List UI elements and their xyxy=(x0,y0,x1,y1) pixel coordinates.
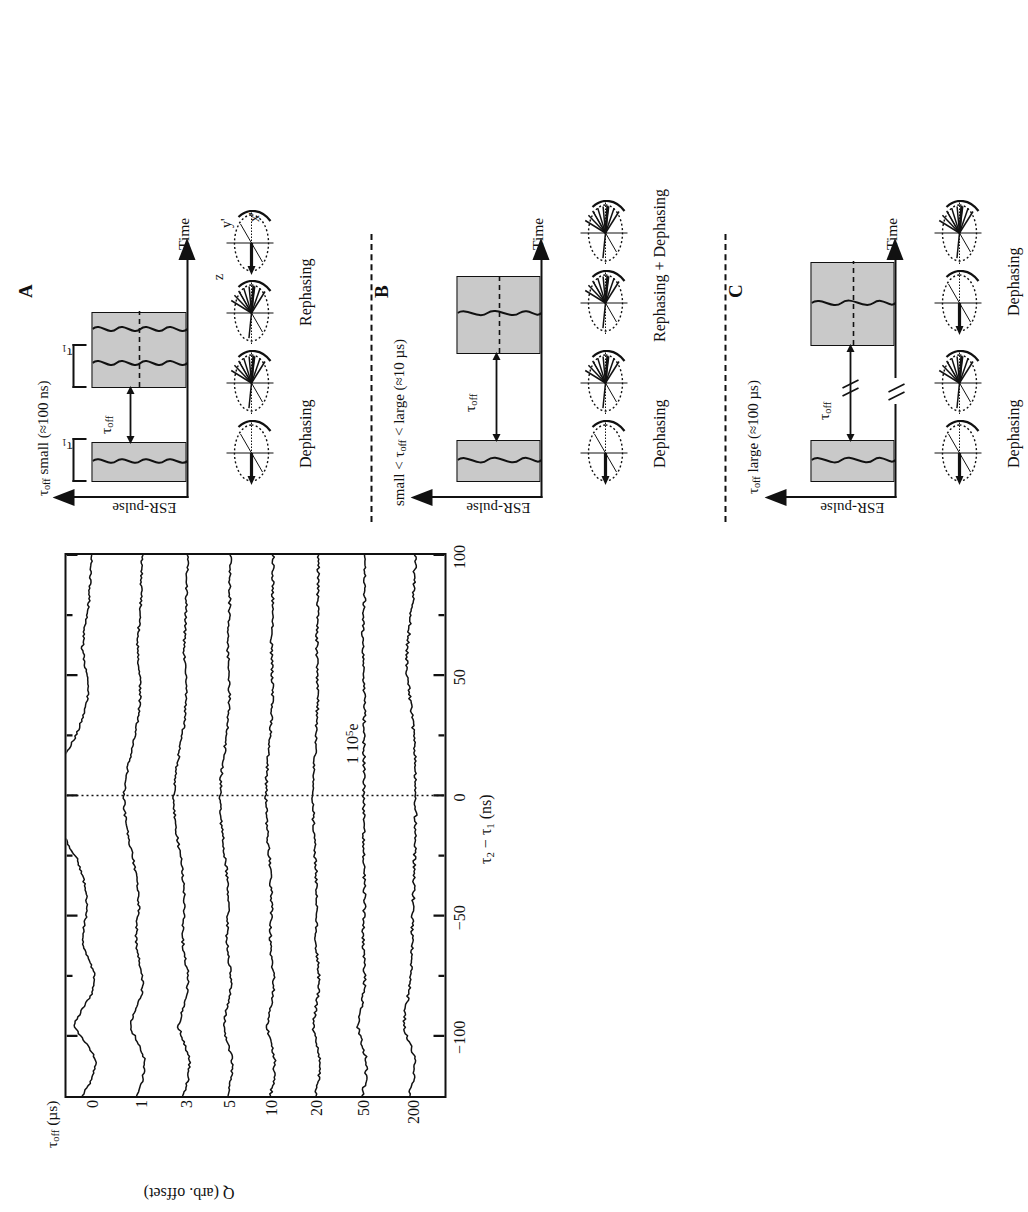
x-tick-label-0: −100 xyxy=(450,1022,468,1054)
legend-header: τoff (µs) xyxy=(42,1101,61,1149)
panel-a-bloch-2 xyxy=(224,350,282,416)
trace-5 xyxy=(219,555,233,1096)
scale-bar-label: 1 105e xyxy=(342,723,361,764)
panel-c-phase-label-2: Dephasing xyxy=(1004,248,1022,316)
panel-b: B small < τoff < large (≈10 µs) ESR-puls… xyxy=(382,272,712,512)
panel-c-bloch-3 xyxy=(932,270,990,336)
panel-a-xaxis-label: Time xyxy=(174,218,192,250)
panel-c-tauoff-label: τoff xyxy=(814,402,833,420)
panel-c-bloch-4 xyxy=(932,200,990,266)
bloch-axis-label-z: z xyxy=(210,274,226,280)
panel-a-bloch-3 xyxy=(224,280,282,346)
panel-c-letter: C xyxy=(724,284,746,298)
panel-c-esr-arrow-icon xyxy=(764,485,788,509)
series-label-10: 10 xyxy=(262,1100,280,1124)
trace-0 xyxy=(66,555,96,1096)
panel-c-yaxis xyxy=(780,496,896,498)
panel-b-xaxis-label: Time xyxy=(528,218,546,250)
panel-a-tauoff-label: τoff xyxy=(96,416,115,434)
panel-a-tau1-bracket-2 xyxy=(72,344,86,388)
panel-a-tauoff-arrow-icon xyxy=(120,386,140,444)
panel-a-pulse-1 xyxy=(91,442,186,482)
panel-a-yaxis-label: ESR-pulse xyxy=(112,499,176,516)
panel-b-bloch-1 xyxy=(578,420,636,486)
trace-10 xyxy=(264,555,275,1096)
panel-c-xaxis-label: Time xyxy=(882,218,900,250)
panel-a-esr-arrow-icon xyxy=(52,485,76,509)
panel-divider-ab xyxy=(370,234,372,522)
series-label-20: 20 xyxy=(307,1100,325,1124)
panel-c-phase-label-1: Dephasing xyxy=(1004,400,1022,468)
panel-b-pulse-1 xyxy=(456,440,540,482)
panel-b-yaxis-label: ESR-pulse xyxy=(466,499,530,516)
panel-a-pulse-2 xyxy=(91,312,186,388)
panel-b-letter: B xyxy=(370,285,392,298)
panel-a: A τoff small (≈100 ns) ESR-pulse Time xyxy=(28,272,358,512)
panel-b-title: small < τoff < large (≈10 µs) xyxy=(390,339,408,506)
panel-a-phase-label-1: Dephasing xyxy=(296,400,314,468)
series-label-5: 5 xyxy=(220,1100,238,1124)
panel-a-bloch-1 xyxy=(224,420,282,486)
panel-a-yaxis xyxy=(68,496,188,498)
panel-a-tau1-bracket-1 xyxy=(72,438,86,482)
x-tick-label-2: 0 xyxy=(450,781,468,813)
panel-c-pulse-2 xyxy=(810,262,894,346)
x-tick-label-3: 50 xyxy=(450,661,468,693)
panel-c-bloch-1 xyxy=(932,420,990,486)
x-tick-label-1: −50 xyxy=(450,902,468,934)
bloch-axis-label-yprime: y' xyxy=(218,218,234,228)
trace-50 xyxy=(356,555,367,1096)
trace-3 xyxy=(172,555,190,1096)
panel-c-break-mark-icon xyxy=(886,378,906,404)
panel-b-esr-arrow-icon xyxy=(410,485,434,509)
panel-b-phase-label-1: Dephasing xyxy=(650,400,668,468)
plot-frame xyxy=(64,553,446,1098)
series-label-1: 1 xyxy=(132,1100,150,1124)
panel-b-yaxis xyxy=(426,496,542,498)
panel-a-tau1-label-2: τ1 xyxy=(62,343,72,360)
x-tick-label-4: 100 xyxy=(450,541,468,573)
panel-b-bloch-3 xyxy=(578,270,636,336)
series-label-50: 50 xyxy=(354,1100,372,1124)
panel-b-pulse-2 xyxy=(456,276,540,354)
panel-c-title: τoff large (≈100 µs) xyxy=(744,380,762,494)
bloch-axis-label-xprime: x' xyxy=(246,212,262,222)
panel-a-tau1-label-1: τ1 xyxy=(62,437,72,454)
panel-c-yaxis-label: ESR-pulse xyxy=(820,499,884,516)
panel-b-tauoff-label: τoff xyxy=(460,394,479,412)
panel-b-tauoff-arrow-icon xyxy=(486,352,506,442)
series-label-200: 200 xyxy=(404,1100,422,1124)
legend-header-text: τoff (µs) xyxy=(42,1101,59,1149)
panel-d: D Q (arb. offset) τoff (µs) 013510205020… xyxy=(42,526,472,1194)
panel-divider-bc xyxy=(724,234,726,522)
x-axis-title: τ2 − τ1 (ns) xyxy=(476,794,495,864)
panel-c-pulse-1 xyxy=(810,440,894,482)
panel-a-phase-label-2: Rephasing xyxy=(296,258,314,326)
trace-200 xyxy=(403,555,417,1096)
panel-c-tauoff-arrow-icon xyxy=(840,344,860,442)
y-axis-title: Q (arb. offset) xyxy=(143,1184,234,1202)
panel-c: C τoff large (≈100 µs) ESR-pulse Time xyxy=(736,272,1028,512)
trace-20 xyxy=(311,555,320,1096)
panel-b-phase-label-2: Rephasing + Dephasing xyxy=(650,189,668,342)
panel-a-title: τoff small (≈100 ns) xyxy=(34,380,52,496)
series-label-0: 0 xyxy=(83,1100,101,1124)
panel-b-bloch-4 xyxy=(578,200,636,266)
panel-c-bloch-2 xyxy=(932,350,990,416)
plot-traces xyxy=(66,555,444,1096)
series-label-3: 3 xyxy=(177,1100,195,1124)
trace-1 xyxy=(123,555,145,1096)
panel-b-bloch-2 xyxy=(578,350,636,416)
panel-a-letter: A xyxy=(14,284,36,298)
